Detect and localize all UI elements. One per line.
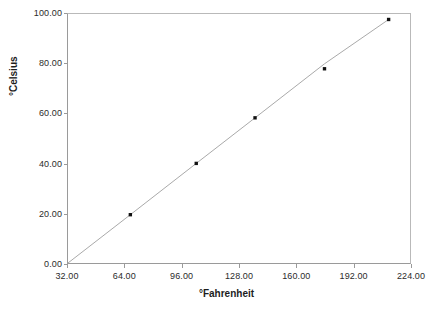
data-point-marker xyxy=(323,67,326,70)
chart-page: °Celsius 0.00 20.00 40.00 60.00 80.00 10… xyxy=(0,0,433,311)
y-tick-label: 100.00 xyxy=(18,8,62,18)
data-point-marker xyxy=(129,213,132,216)
x-axis-title-label: °Fahrenheit xyxy=(199,288,254,299)
x-tick-label: 96.00 xyxy=(170,271,193,281)
series-markers xyxy=(129,18,391,217)
x-axis-title: °Fahrenheit xyxy=(0,288,433,299)
x-tick-label: 160.00 xyxy=(282,271,310,281)
series-line xyxy=(68,19,389,263)
x-tick-mark xyxy=(182,264,183,268)
x-tick-mark xyxy=(239,264,240,268)
x-tick-mark xyxy=(354,264,355,268)
data-point-marker xyxy=(195,162,198,165)
y-tick-label: 0.00 xyxy=(18,259,62,269)
x-tick-mark xyxy=(411,264,412,268)
x-tick-label: 224.00 xyxy=(397,271,425,281)
y-tick-label: 40.00 xyxy=(18,159,62,169)
data-point-marker xyxy=(253,116,256,119)
y-tick-label: 20.00 xyxy=(18,209,62,219)
data-series-svg xyxy=(68,14,410,263)
y-tick-label: 80.00 xyxy=(18,58,62,68)
x-tick-label: 64.00 xyxy=(113,271,136,281)
plot-area xyxy=(67,13,411,264)
data-point-marker xyxy=(387,18,390,21)
x-tick-mark xyxy=(124,264,125,268)
x-tick-mark xyxy=(67,264,68,268)
x-tick-label: 128.00 xyxy=(225,271,253,281)
y-tick-label: 60.00 xyxy=(18,108,62,118)
x-tick-label: 32.00 xyxy=(55,271,78,281)
x-tick-label: 192.00 xyxy=(340,271,368,281)
x-tick-mark xyxy=(296,264,297,268)
